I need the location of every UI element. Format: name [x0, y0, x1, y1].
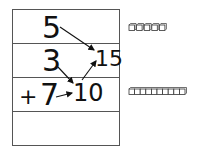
unit-cube [152, 25, 158, 31]
rod-segment [140, 89, 146, 95]
rod-segment [135, 89, 141, 95]
rod-segment [168, 89, 174, 95]
rod-segment [179, 89, 185, 95]
ten-rod [129, 88, 187, 95]
addend-2: 3 [42, 43, 61, 78]
rod-segment [129, 89, 135, 95]
addend-1: 5 [42, 10, 61, 45]
operator-plus: + [19, 84, 37, 109]
arrow-5-to-15 [60, 27, 94, 50]
unit-cube [159, 25, 165, 31]
ones-cubes [129, 24, 166, 31]
rod-segment [163, 89, 169, 95]
worksheet-figure: 5 3 + 7 10 15 [0, 0, 203, 151]
partial-sum: 10 [73, 79, 104, 107]
addend-3: 7 [40, 77, 59, 112]
rod-segment [146, 89, 152, 95]
unit-cube [129, 25, 135, 31]
rod-segment [157, 89, 163, 95]
answer-grid [12, 10, 120, 146]
rod-segment [174, 89, 180, 95]
total-sum: 15 [95, 46, 123, 71]
unit-cube [137, 25, 143, 31]
rod-segment [151, 89, 157, 95]
unit-cube [144, 25, 150, 31]
